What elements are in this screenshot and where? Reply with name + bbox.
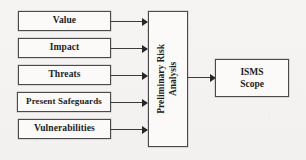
flowchart-diagram: Value Impact Threats Present Safeguards … <box>0 0 306 160</box>
arrow-impact-to-analysis <box>111 48 147 49</box>
arrow-vulnerabilities-to-analysis <box>111 129 147 130</box>
input-box-label: Present Safeguards <box>26 97 102 106</box>
input-box-label: Vulnerabilities <box>34 124 95 134</box>
process-box-preliminary-risk-analysis[interactable]: Preliminary Risk Analysis <box>148 11 188 147</box>
input-box-threats[interactable]: Threats <box>18 65 111 85</box>
input-box-label: Threats <box>48 70 80 80</box>
arrow-analysis-to-isms-scope <box>188 77 215 78</box>
input-box-present-safeguards[interactable]: Present Safeguards <box>17 92 111 112</box>
input-box-label: Impact <box>50 43 80 53</box>
arrow-threats-to-analysis <box>111 75 147 76</box>
arrow-present-safeguards-to-analysis <box>111 102 147 103</box>
output-box-label: ISMS Scope <box>240 66 264 91</box>
input-box-value[interactable]: Value <box>18 11 111 31</box>
process-box-label: Preliminary Risk Analysis <box>156 44 180 114</box>
input-box-label: Value <box>53 16 76 26</box>
input-box-vulnerabilities[interactable]: Vulnerabilities <box>18 119 111 139</box>
process-box-label-line2: Analysis <box>168 44 180 114</box>
arrow-value-to-analysis <box>111 21 147 22</box>
output-box-label-line1: ISMS <box>240 66 264 78</box>
output-box-isms-scope[interactable]: ISMS Scope <box>215 59 289 97</box>
output-box-label-line2: Scope <box>240 78 264 90</box>
input-box-impact[interactable]: Impact <box>18 38 111 58</box>
process-box-label-line1: Preliminary Risk <box>156 44 168 114</box>
